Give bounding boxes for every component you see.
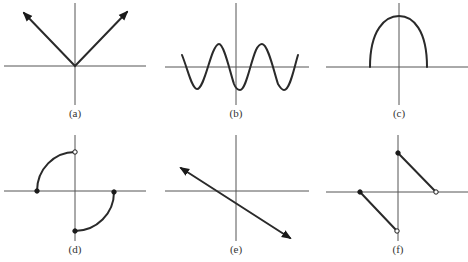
closed-dot <box>73 229 77 233</box>
closed-dot <box>358 190 362 194</box>
open-dot <box>73 150 77 154</box>
figure-label-a: (a) <box>69 107 82 120</box>
closed-dot <box>396 151 400 155</box>
graph-f: (f) <box>326 135 468 256</box>
open-dot <box>395 229 399 233</box>
graph-c: (c) <box>326 3 468 120</box>
figure-label-c: (c) <box>393 107 406 120</box>
lower-segment <box>360 192 397 231</box>
figure-label-f: (f) <box>393 243 404 256</box>
open-dot <box>434 190 438 194</box>
closed-dot <box>35 189 39 193</box>
graph-a: (a) <box>4 3 146 120</box>
closed-dot <box>112 190 116 194</box>
figure-label-d: (d) <box>69 243 82 256</box>
graphs-figure: (a) (b) (c) (d) (e) <box>0 0 468 262</box>
upper-left-arc <box>37 152 75 191</box>
lower-right-arc <box>75 192 114 231</box>
upper-segment <box>398 153 436 192</box>
figure-label-e: (e) <box>230 243 243 256</box>
graph-b: (b) <box>165 3 309 120</box>
figure-label-b: (b) <box>230 107 243 120</box>
graph-d: (d) <box>4 135 146 256</box>
graph-e: (e) <box>165 135 309 256</box>
